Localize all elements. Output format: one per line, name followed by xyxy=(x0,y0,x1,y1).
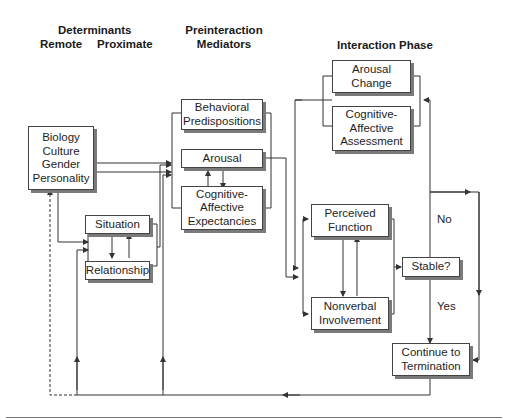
node-biology-culture-gender-personality: Biology Culture Gender Personality xyxy=(28,126,94,190)
node-continue-to-termination: Continue to Termination xyxy=(392,343,470,376)
node-cognitive-affective-expectancies: Cognitive- Affective Expectancies xyxy=(181,186,263,230)
node-arousal-change: Arousal Change xyxy=(332,60,411,93)
node-nonverbal-involvement: Nonverbal Involvement xyxy=(311,297,389,330)
bottom-rule xyxy=(6,417,502,418)
node-perceived-function: Perceived Function xyxy=(311,204,389,237)
node-arousal: Arousal xyxy=(181,149,263,168)
edge-label-no: No xyxy=(437,213,452,225)
node-situation: Situation xyxy=(85,215,150,234)
node-behavioral-predispositions: Behavioral Predispositions xyxy=(181,99,263,130)
node-relationship: Relationship xyxy=(85,261,150,280)
edge-label-yes: Yes xyxy=(437,300,456,312)
node-stable-decision: Stable? xyxy=(402,257,460,277)
node-cognitive-affective-assessment: Cognitive- Affective Assessment xyxy=(332,106,411,151)
